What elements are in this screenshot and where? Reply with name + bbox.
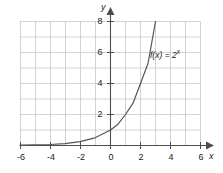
x-tick-label-neg4: -4 xyxy=(41,153,61,162)
exponential-function-graph: y x 2 4 6 8 -6 -4 -2 0 2 4 6 f(x) = 2x xyxy=(0,0,223,173)
y-tick-label-8: 8 xyxy=(94,17,106,26)
y-axis-label: y xyxy=(101,3,106,12)
function-equation-label: f(x) = 2x xyxy=(150,51,180,60)
y-axis xyxy=(107,7,115,145)
x-tick-label-4: 4 xyxy=(161,153,181,162)
y-tick-label-4: 4 xyxy=(94,79,106,88)
x-tick-label-0: 0 xyxy=(101,153,121,162)
x-tick-label-6: 6 xyxy=(191,153,211,162)
x-tick-label-neg2: -2 xyxy=(71,153,91,162)
plot-canvas xyxy=(0,0,223,173)
function-equation-exponent: x xyxy=(177,48,180,55)
y-tick-label-2: 2 xyxy=(94,110,106,119)
x-tick-label-2: 2 xyxy=(131,153,151,162)
y-tick-label-6: 6 xyxy=(94,48,106,57)
function-equation-base: f(x) = 2 xyxy=(150,50,177,60)
x-tick-label-neg6: -6 xyxy=(11,153,31,162)
x-axis xyxy=(20,142,214,150)
